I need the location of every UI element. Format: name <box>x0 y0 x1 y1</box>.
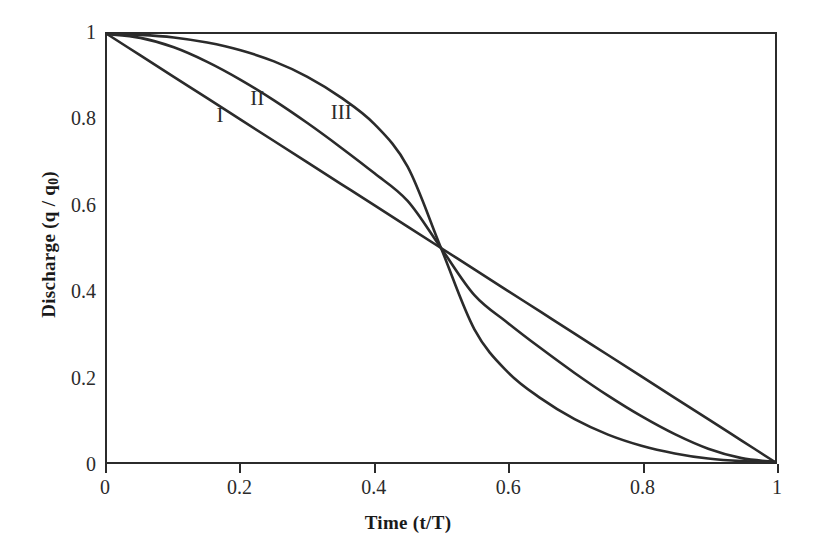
y-axis-title-subscript: 0 <box>46 178 61 185</box>
ytick-label-wrap: 0 <box>24 454 96 474</box>
ytick-label-0: 0 <box>32 454 96 474</box>
xtick-label-0-8: 0.8 <box>603 476 683 498</box>
curve-paths-group <box>107 34 775 462</box>
y-axis-title-close: ) <box>38 171 59 178</box>
ytick-label-1: 1 <box>32 22 96 42</box>
figure-canvas: 1 0.8 0.6 0.4 0.2 0 0 0.2 0.4 0.6 0.8 1 … <box>0 0 816 558</box>
xtick-label-0-2: 0.2 <box>199 476 279 498</box>
ytick-label-wrap: 1 <box>24 22 96 42</box>
curve-label-ii: II <box>250 88 264 109</box>
plot-area <box>105 32 777 464</box>
x-axis-title: Time (t/T) <box>0 512 816 534</box>
xtick-label-1: 1 <box>737 476 816 498</box>
xtick-label-0-6: 0.6 <box>468 476 548 498</box>
y-axis-title-main: Discharge (q / q <box>38 185 59 318</box>
xtick-label-0: 0 <box>65 476 145 498</box>
xtick-mark-0-6 <box>508 464 510 473</box>
curves-svg <box>107 34 775 462</box>
xtick-mark-0-2 <box>239 464 241 473</box>
xtick-mark-0-4 <box>374 464 376 473</box>
xtick-mark-0 <box>105 464 107 473</box>
xtick-mark-1 <box>777 464 779 473</box>
y-axis-title: Discharge (q / q0) <box>38 44 63 444</box>
curve-label-iii: III <box>331 102 352 123</box>
curve-label-i: I <box>217 105 224 126</box>
xtick-label-0-4: 0.4 <box>334 476 414 498</box>
xtick-mark-0-8 <box>643 464 645 473</box>
